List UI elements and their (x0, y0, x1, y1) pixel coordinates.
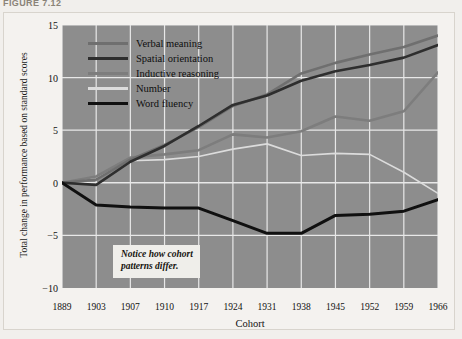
legend-item: Verbal meaning (88, 36, 258, 51)
legend-swatch (88, 102, 128, 105)
annotation-callout: Notice how cohort patterns differ. (113, 245, 200, 278)
x-tick-label: 1959 (394, 302, 413, 312)
x-tick-label: 1938 (292, 302, 311, 312)
legend-label: Inductive reasoning (136, 68, 219, 79)
legend-item: Number (88, 81, 258, 96)
legend-label: Number (136, 83, 170, 94)
legend-item: Inductive reasoning (88, 66, 258, 81)
x-tick-label: 1924 (223, 302, 242, 312)
y-tick-label: 0 (28, 177, 58, 188)
x-tick-label: 1945 (326, 302, 345, 312)
legend-label: Verbal meaning (136, 38, 202, 49)
figure-root: FIGURE 7.12 Total change in performance … (0, 0, 462, 339)
x-tick-label: 1966 (429, 302, 448, 312)
legend-item: Spatial orientation (88, 51, 258, 66)
y-tick-label: −10 (28, 283, 58, 294)
legend-swatch (88, 72, 128, 75)
y-tick-label: 10 (28, 72, 58, 83)
x-tick-label: 1952 (360, 302, 379, 312)
x-tick-label: 1903 (87, 302, 106, 312)
series-line (62, 183, 438, 234)
y-axis-ticks: 151050−5−10 (26, 0, 58, 339)
legend-swatch (88, 87, 128, 90)
x-tick-label: 1931 (258, 302, 277, 312)
chart-legend: Verbal meaningSpatial orientationInducti… (88, 36, 258, 111)
x-axis-label: Cohort (62, 318, 438, 329)
x-tick-label: 1907 (121, 302, 140, 312)
y-tick-label: −5 (28, 230, 58, 241)
x-tick-label: 1917 (189, 302, 208, 312)
legend-swatch (88, 42, 128, 45)
x-tick-label: 1910 (155, 302, 174, 312)
legend-label: Spatial orientation (136, 53, 213, 64)
legend-swatch (88, 57, 128, 60)
y-tick-label: 5 (28, 125, 58, 136)
legend-label: Word fluency (136, 98, 193, 109)
legend-item: Word fluency (88, 96, 258, 111)
y-tick-label: 15 (28, 20, 58, 31)
x-tick-label: 1889 (53, 302, 72, 312)
